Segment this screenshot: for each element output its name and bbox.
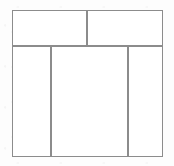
header-left-cell-label bbox=[13, 11, 86, 45]
body-center-column-label bbox=[52, 47, 127, 156]
header-right-cell-label bbox=[88, 11, 162, 45]
body-center-column[interactable] bbox=[51, 46, 128, 157]
header-column-divider bbox=[87, 10, 88, 46]
body-left-column[interactable] bbox=[12, 46, 51, 157]
body-right-column[interactable] bbox=[128, 46, 163, 157]
header-right-cell[interactable] bbox=[87, 10, 163, 46]
body-divider-right bbox=[128, 46, 129, 157]
body-right-column-label bbox=[129, 47, 162, 156]
header-left-cell[interactable] bbox=[12, 10, 87, 46]
body-left-column-label bbox=[13, 47, 50, 156]
body-divider-left bbox=[51, 46, 52, 157]
wireframe-canvas bbox=[0, 0, 174, 166]
